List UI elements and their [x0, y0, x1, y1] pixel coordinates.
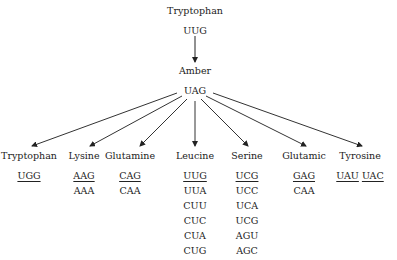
amino-acid-label: Tyrosine [339, 150, 381, 161]
codon: UCA [236, 200, 258, 211]
codon: UUA [184, 185, 207, 196]
codon: AAG [73, 170, 94, 181]
amino-acid-label: Lysine [68, 150, 99, 161]
codon: AGU [236, 230, 258, 241]
root-label: Tryptophan [167, 5, 223, 16]
codon: UCC [236, 185, 259, 196]
mutant-label: Amber [179, 65, 211, 76]
amino-acid-label: Glutamic [282, 150, 326, 161]
codon: AGC [236, 245, 258, 256]
amino-acid-label: Serine [231, 150, 262, 161]
codon: AAA [74, 185, 95, 196]
codon: UUG [183, 170, 207, 181]
codon: CAG [119, 170, 141, 181]
codon: CUC [184, 215, 207, 226]
codon: UCG [236, 215, 259, 226]
codon: CUA [184, 230, 206, 241]
amino-acid-label: Tryptophan [1, 150, 57, 161]
amino-acid-label: Glutamine [105, 150, 155, 161]
codon: CAA [294, 185, 315, 196]
codon: CUG [184, 245, 207, 256]
codon: GAG [293, 170, 315, 181]
codon: UGG [17, 170, 40, 181]
mutant-codon: UAG [184, 85, 206, 96]
codon: UCG [236, 170, 259, 181]
amino-acid-label: Leucine [176, 150, 214, 161]
root-codon: UUG [183, 25, 207, 36]
codon: CAA [120, 185, 141, 196]
codon: UAU UAC [336, 170, 383, 181]
codon: CUU [183, 200, 206, 211]
